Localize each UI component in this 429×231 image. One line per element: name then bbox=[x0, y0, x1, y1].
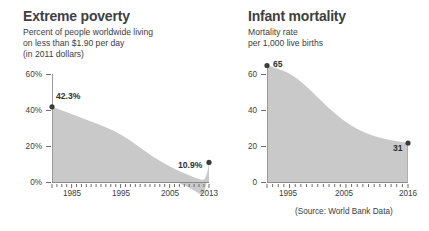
y-tick-label-60: 60 bbox=[225, 70, 257, 79]
chart-subtitle-line-1: Percent of people worldwide living bbox=[23, 27, 153, 38]
y-tick-label-0: 0 bbox=[225, 178, 257, 187]
y-tick-label-20: 20% bbox=[2, 142, 42, 151]
data-marker-start bbox=[49, 104, 54, 109]
chart-subtitle-line-3: (in 2011 dollars) bbox=[23, 49, 84, 60]
y-tick-label-40: 40 bbox=[225, 106, 257, 115]
chart-subtitle-line-2: on less than $1.90 per day bbox=[23, 38, 124, 49]
x-tick-label-1985: 1985 bbox=[52, 189, 92, 198]
x-tick-label-2005: 2005 bbox=[324, 189, 364, 198]
chart-extreme-poverty: Extreme poverty Percent of people worldw… bbox=[0, 0, 215, 231]
chart-subtitle-line-2: per 1,000 live births bbox=[248, 38, 323, 49]
plot-area-infant-mortality bbox=[267, 66, 417, 191]
x-tick-label-2005: 2005 bbox=[150, 189, 190, 198]
data-label-start-extreme-poverty: 42.3% bbox=[56, 91, 80, 101]
chart-title-extreme-poverty: Extreme poverty bbox=[23, 8, 130, 24]
y-tick-label-0: 0% bbox=[2, 178, 42, 187]
y-tick-label-60: 60% bbox=[2, 70, 42, 79]
x-tick-label-2016: 2016 bbox=[388, 189, 428, 198]
x-tick-label-1995: 1995 bbox=[268, 189, 308, 198]
x-tick-label-1995: 1995 bbox=[101, 189, 141, 198]
data-label-start-infant-mortality: 65 bbox=[273, 59, 283, 69]
y-tick-label-20: 20 bbox=[225, 142, 257, 151]
data-marker-start bbox=[264, 63, 269, 68]
y-tick-label-40: 40% bbox=[2, 106, 42, 115]
data-label-end-infant-mortality: 31 bbox=[393, 143, 403, 153]
data-label-end-extreme-poverty: 10.9% bbox=[178, 160, 202, 170]
source-attribution: (Source: World Bank Data) bbox=[295, 207, 393, 216]
chart-title-infant-mortality: Infant mortality bbox=[248, 8, 346, 24]
plot-area-extreme-poverty bbox=[52, 66, 212, 191]
chart-subtitle-line-1: Mortality rate bbox=[248, 27, 298, 38]
chart-infant-mortality: Infant mortality Mortality rate per 1,00… bbox=[215, 0, 429, 231]
data-marker-end bbox=[206, 160, 211, 165]
data-marker-end bbox=[405, 141, 410, 146]
chart-panels: Extreme poverty Percent of people worldw… bbox=[0, 0, 429, 231]
